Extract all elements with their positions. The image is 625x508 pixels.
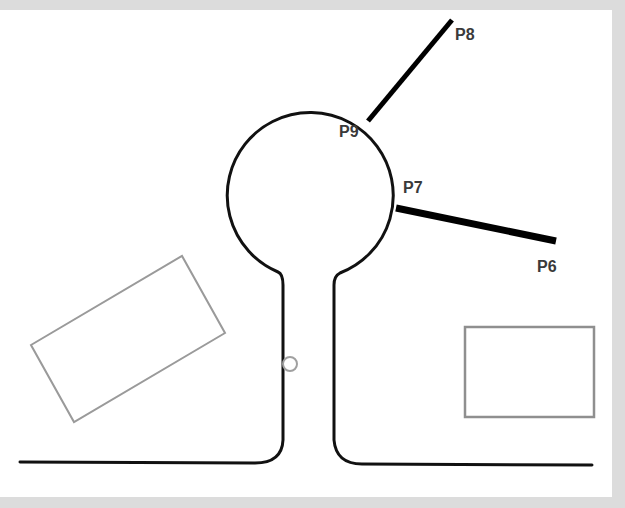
stem-marker-circle [283, 357, 297, 371]
obstacle-rectangle [465, 327, 594, 417]
label-p8: P8 [455, 26, 475, 43]
label-p7: P7 [403, 179, 423, 196]
segment-p7-p6 [396, 208, 556, 241]
diagram-svg: P8 P9 P7 P6 [0, 10, 612, 497]
label-p6: P6 [537, 258, 557, 275]
segment-p9-p8 [368, 20, 452, 121]
diagram-canvas: P8 P9 P7 P6 [0, 10, 612, 497]
label-p9: P9 [339, 123, 359, 140]
obstacle-rotated-rectangle [31, 256, 225, 422]
keyhole-outline [20, 113, 592, 465]
